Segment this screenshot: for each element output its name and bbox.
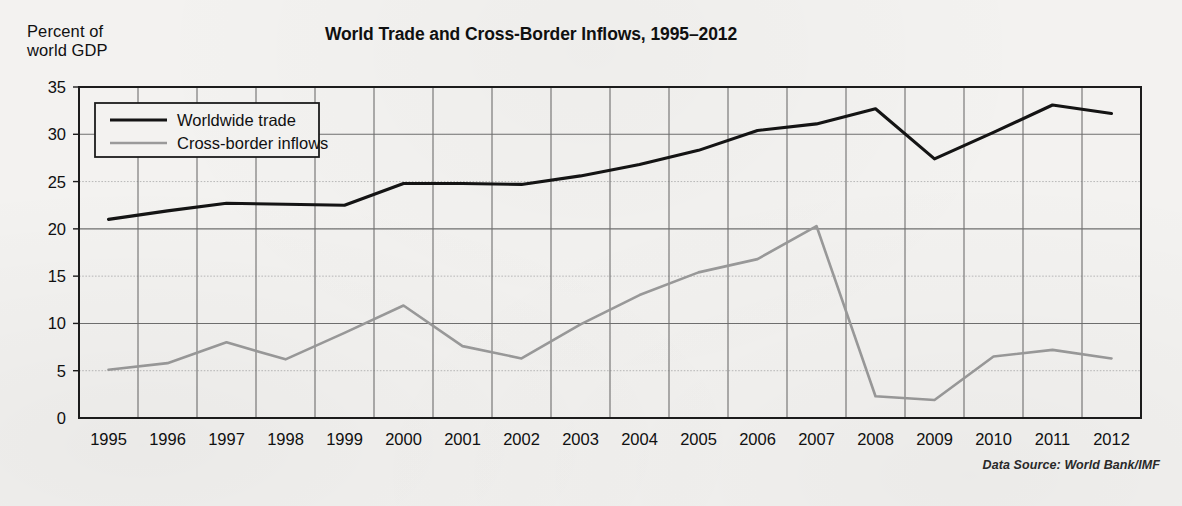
x-axis-tick-label: 2006 (739, 430, 776, 448)
x-axis-tick-label: 1999 (326, 430, 363, 448)
x-axis-tick-label: 2012 (1093, 430, 1130, 448)
x-axis-tick-label: 2002 (503, 430, 540, 448)
y-axis-tick-label: 25 (48, 173, 66, 191)
x-axis-tick-labels: 1995199619971998199920002001200220032004… (90, 430, 1130, 448)
x-axis-tick-label: 1997 (208, 430, 245, 448)
line-chart-figure: 05101520253035 1995199619971998199920002… (0, 0, 1182, 506)
x-axis-tick-label: 1996 (149, 430, 186, 448)
legend-label: Cross-border inflows (177, 134, 328, 152)
x-axis-tick-label: 2005 (680, 430, 717, 448)
x-axis-tick-label: 2008 (857, 430, 894, 448)
y-axis-tick-label: 10 (48, 314, 66, 332)
legend-label: Worldwide trade (177, 111, 296, 129)
x-axis-tick-label: 1995 (90, 430, 127, 448)
x-axis-tick-label: 1998 (267, 430, 304, 448)
x-axis-tick-label: 2004 (621, 430, 658, 448)
x-axis-tick-label: 2007 (798, 430, 835, 448)
x-axis-tick-label: 2003 (562, 430, 599, 448)
chart-legend: Worldwide tradeCross-border inflows (95, 103, 328, 157)
x-axis-tick-label: 2000 (385, 430, 422, 448)
y-axis-tick-label: 30 (48, 125, 66, 143)
y-axis-tick-label: 15 (48, 267, 66, 285)
y-axis-tick-label: 5 (57, 362, 66, 380)
x-axis-tick-label: 2011 (1035, 430, 1070, 448)
y-axis-tick-label: 20 (48, 220, 66, 238)
y-axis-tick-labels: 05101520253035 (48, 78, 79, 427)
x-axis-tick-label: 2009 (916, 430, 953, 448)
x-axis-tick-label: 2001 (444, 430, 481, 448)
y-axis-tick-label: 0 (57, 409, 66, 427)
x-axis-tick-label: 2010 (975, 430, 1012, 448)
y-axis-tick-label: 35 (48, 78, 66, 96)
